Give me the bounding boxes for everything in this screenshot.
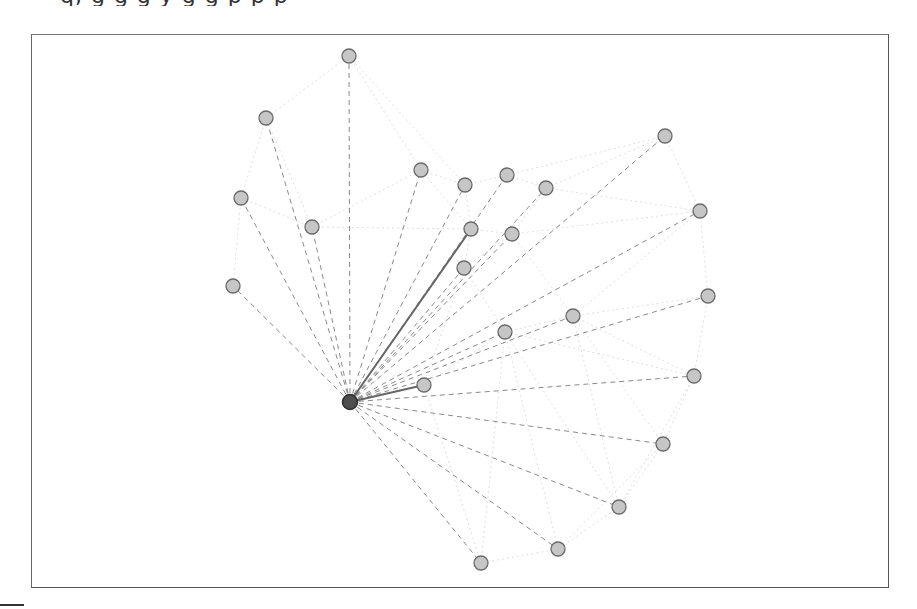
spoke-edge bbox=[266, 118, 350, 402]
highlighted-edges bbox=[350, 229, 471, 402]
faint-edge bbox=[546, 136, 665, 188]
spoke-edge bbox=[350, 268, 464, 402]
network-graph bbox=[0, 0, 917, 609]
graph-node bbox=[342, 49, 356, 63]
faint-edge bbox=[481, 332, 505, 563]
spoke-edge bbox=[350, 188, 546, 402]
faint-edge bbox=[241, 118, 266, 198]
spoke-edge bbox=[349, 56, 350, 402]
spoke-edges bbox=[233, 56, 708, 563]
graph-node bbox=[417, 378, 431, 392]
spoke-edge bbox=[350, 185, 465, 402]
faint-edge bbox=[424, 385, 481, 563]
faint-edge bbox=[512, 234, 573, 316]
nodes bbox=[226, 49, 715, 570]
graph-node bbox=[259, 111, 273, 125]
corner-mark bbox=[0, 604, 24, 606]
faint-edge bbox=[694, 296, 708, 376]
faint-edge bbox=[573, 316, 694, 376]
faint-edge bbox=[312, 170, 421, 227]
faint-edge bbox=[573, 211, 700, 316]
faint-edge bbox=[512, 188, 546, 234]
faint-edge bbox=[312, 227, 471, 229]
graph-node bbox=[658, 129, 672, 143]
graph-node bbox=[612, 500, 626, 514]
faint-edge bbox=[266, 56, 349, 118]
graph-node bbox=[566, 309, 580, 323]
spoke-edge bbox=[350, 376, 694, 402]
spoke-edge bbox=[312, 227, 350, 402]
highlighted-edge bbox=[350, 229, 471, 402]
faint-edge bbox=[619, 444, 663, 507]
spoke-edge bbox=[350, 234, 512, 402]
graph-node bbox=[305, 220, 319, 234]
graph-node bbox=[414, 163, 428, 177]
graph-node bbox=[539, 181, 553, 195]
faint-edge bbox=[349, 56, 421, 170]
faint-edge bbox=[512, 211, 700, 234]
graph-node bbox=[701, 289, 715, 303]
center-node bbox=[343, 395, 358, 410]
faint-edge bbox=[573, 296, 708, 316]
faint-edge bbox=[558, 444, 663, 549]
graph-node bbox=[498, 325, 512, 339]
spoke-edge bbox=[350, 170, 421, 402]
spoke-edge bbox=[350, 402, 558, 549]
spoke-edge bbox=[350, 316, 573, 402]
graph-node bbox=[551, 542, 565, 556]
graph-node bbox=[464, 222, 478, 236]
graph-node bbox=[500, 168, 514, 182]
faint-edge bbox=[573, 316, 619, 507]
faint-edge bbox=[558, 507, 619, 549]
graph-node bbox=[656, 437, 670, 451]
graph-node bbox=[457, 261, 471, 275]
spoke-edge bbox=[350, 211, 700, 402]
faint-edge bbox=[663, 376, 694, 444]
spoke-edge bbox=[241, 198, 350, 402]
faint-edge bbox=[464, 234, 512, 268]
spoke-edge bbox=[350, 402, 481, 563]
spoke-edge bbox=[350, 402, 619, 507]
graph-node bbox=[458, 178, 472, 192]
faint-edge bbox=[349, 56, 465, 185]
spoke-edge bbox=[350, 402, 663, 444]
faint-edge bbox=[505, 332, 619, 507]
graph-node bbox=[505, 227, 519, 241]
graph-node bbox=[226, 279, 240, 293]
spoke-edge bbox=[233, 286, 350, 402]
graph-node bbox=[234, 191, 248, 205]
faint-edge bbox=[505, 332, 558, 549]
faint-edge bbox=[546, 188, 700, 211]
faint-edge bbox=[424, 268, 464, 385]
graph-node bbox=[474, 556, 488, 570]
faint-edge bbox=[665, 136, 700, 211]
graph-node bbox=[693, 204, 707, 218]
faint-edge bbox=[481, 549, 558, 563]
faint-edge bbox=[700, 211, 708, 296]
graph-node bbox=[687, 369, 701, 383]
faint-edge bbox=[573, 316, 663, 444]
faint-edge bbox=[266, 118, 312, 227]
spoke-edge bbox=[350, 296, 708, 402]
faint-edge bbox=[233, 198, 241, 286]
